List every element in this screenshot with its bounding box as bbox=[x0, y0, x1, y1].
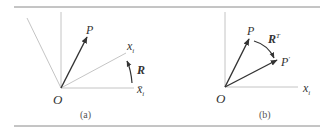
label-origin-a: O bbox=[53, 93, 62, 106]
fixed-axis-subscript: i bbox=[142, 90, 144, 98]
axis-subscript: i bbox=[308, 89, 310, 97]
rotation-letter: R bbox=[268, 32, 276, 46]
label-vector-p-a: P bbox=[86, 24, 93, 36]
rotation-superscript: T bbox=[276, 32, 280, 40]
rotated-axis-line bbox=[61, 53, 126, 88]
rotation-arc-arrow bbox=[127, 61, 132, 83]
vector-p-arrow bbox=[61, 37, 87, 88]
vector-p-prime-arrow bbox=[225, 60, 277, 87]
label-rotated-axis-a: xi bbox=[127, 40, 134, 55]
label-vector-p-b: P bbox=[247, 25, 254, 37]
label-origin-b: O bbox=[216, 92, 225, 105]
rotated-vertical-axis bbox=[27, 18, 61, 88]
vector-p-arrow bbox=[225, 39, 249, 87]
rotated-axis-subscript: i bbox=[132, 47, 134, 55]
label-rotation-r-a: R bbox=[137, 64, 145, 76]
label-axis-b: xi bbox=[303, 82, 310, 97]
panel-a bbox=[27, 12, 134, 88]
label-rotation-rt-b: RT bbox=[268, 33, 280, 45]
label-fixed-axis-a: x̄i bbox=[137, 83, 144, 98]
caption-b: (b) bbox=[259, 110, 271, 120]
caption-a: (a) bbox=[80, 110, 91, 120]
panel-b bbox=[225, 12, 298, 87]
rotated-vector-prime: ′ bbox=[288, 55, 290, 63]
label-vector-p-prime-b: P′ bbox=[281, 56, 290, 68]
